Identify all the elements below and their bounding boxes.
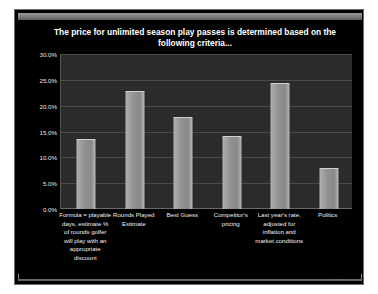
plot-area: 0.0%5.0%10.0%15.0%20.0%25.0%30.0% (60, 54, 352, 209)
bar-slot (62, 54, 111, 209)
screenshot-root: TheManagement 2013 The price for unlimit… (0, 0, 378, 294)
bar[interactable] (174, 117, 193, 209)
x-axis-category-label: Competitor's pricing (209, 211, 253, 228)
bar-slot (256, 54, 305, 209)
y-axis-tick-label: 20.0% (39, 102, 57, 109)
bar-series (62, 54, 352, 209)
x-axis-category-label: Best Guess (160, 211, 204, 220)
y-axis-tick-label: 5.0% (43, 180, 57, 187)
bar-slot (208, 54, 257, 209)
bar-slot (111, 54, 160, 209)
bar-slot (305, 54, 354, 209)
bar[interactable] (222, 136, 241, 209)
y-axis-tick-label: 30.0% (39, 51, 57, 58)
chart-title: The price for unlimited season play pass… (45, 27, 345, 49)
frame-top-bar (18, 13, 362, 20)
y-axis-tick-label: 10.0% (39, 154, 57, 161)
x-axis-category-label: Rounds Played Estimate (109, 211, 159, 228)
bar[interactable] (77, 139, 96, 209)
x-axis-category-labels: Formula = playable days, estimate % of r… (61, 211, 352, 277)
bar-slot (159, 54, 208, 209)
y-axis-tick-label: 25.0% (39, 76, 57, 83)
bar[interactable] (271, 83, 290, 209)
bar[interactable] (125, 91, 144, 209)
chart-image-frame: TheManagement 2013 The price for unlimit… (14, 9, 364, 285)
bar-chart: The price for unlimited season play pass… (19, 21, 361, 279)
x-axis-category-label: Politics (308, 211, 348, 220)
bar[interactable] (319, 168, 338, 209)
x-axis-category-label: Formula = playable days, estimate % of r… (59, 211, 111, 263)
y-axis-tick-label: 15.0% (39, 128, 57, 135)
x-axis-category-label: Last year's rate, adjusted for inflation… (253, 211, 305, 245)
y-axis-tick-label: 0.0% (43, 206, 57, 213)
